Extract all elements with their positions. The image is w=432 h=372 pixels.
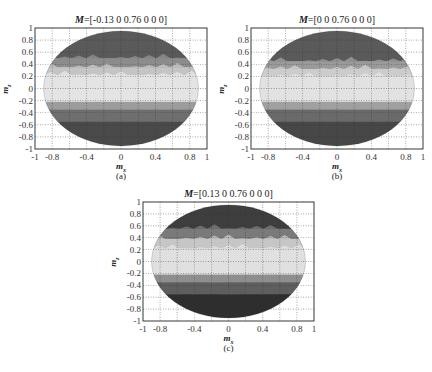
x-tick-label: -0.4 — [187, 324, 201, 334]
chart-panel-c: M=[0.13 0 0.76 0 0 0]10.80.60.40.20-0.2-… — [0, 0, 432, 372]
y-tick-label: -0.6 — [127, 292, 141, 302]
x-tick-label: 0.4 — [257, 324, 268, 334]
y-tick-label: 0.2 — [130, 245, 141, 255]
y-tick-label: -0.2 — [127, 268, 141, 278]
plot-area — [0, 0, 432, 372]
chart-title: M=[0.13 0 0.76 0 0 0] — [184, 188, 273, 199]
x-tick-label: 1 — [312, 324, 317, 334]
y-tick-label: -0.4 — [127, 280, 141, 290]
y-tick-label: 0.6 — [130, 221, 141, 231]
color-band — [143, 275, 314, 283]
panel-caption: (c) — [224, 343, 234, 353]
x-tick-label: -1 — [139, 324, 147, 334]
y-tick-label: -0.8 — [127, 304, 141, 314]
x-tick-label: 0.8 — [291, 324, 302, 334]
x-tick-label: -0.8 — [153, 324, 167, 334]
y-tick-label: 0 — [137, 257, 142, 267]
y-axis-label: mz — [108, 257, 120, 266]
y-tick-label: 0.8 — [130, 209, 141, 219]
y-tick-label: 0.4 — [130, 233, 141, 243]
y-tick-label: 1 — [137, 197, 142, 207]
